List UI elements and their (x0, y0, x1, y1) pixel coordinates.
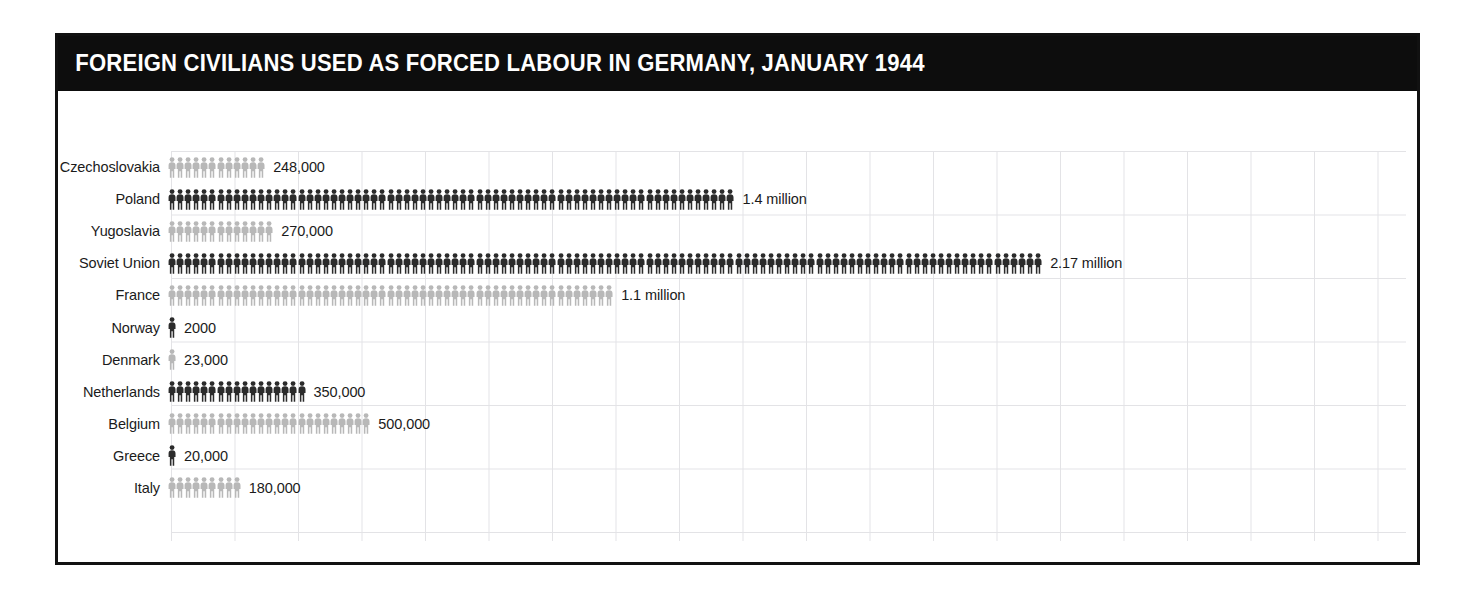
pictogram-bar (168, 381, 306, 402)
person-icon (208, 221, 216, 242)
person-icon (913, 253, 921, 274)
person-icon (306, 413, 314, 434)
person-icon (306, 189, 314, 210)
person-icon (257, 253, 265, 274)
person-icon (184, 477, 192, 498)
person-icon (484, 253, 492, 274)
person-icon (977, 253, 985, 274)
person-icon (411, 189, 419, 210)
row-label-yugoslavia: Yugoslavia (58, 223, 168, 239)
person-icon (961, 253, 969, 274)
person-icon (217, 477, 225, 498)
person-icon (200, 157, 208, 178)
person-icon (646, 189, 654, 210)
person-icon (241, 285, 249, 306)
person-icon (492, 285, 500, 306)
chart-row: Italy180,000 (58, 472, 1417, 504)
person-icon (346, 413, 354, 434)
person-icon (217, 381, 225, 402)
pictogram-bar (168, 285, 613, 306)
person-icon (597, 285, 605, 306)
person-icon (532, 285, 540, 306)
person-icon (581, 253, 589, 274)
person-icon (1002, 253, 1010, 274)
row-label-denmark: Denmark (58, 352, 168, 368)
person-icon (662, 189, 670, 210)
person-icon (225, 253, 233, 274)
person-icon (888, 253, 896, 274)
pictogram-bar (168, 477, 241, 498)
person-icon (670, 253, 678, 274)
row-value-label: 500,000 (370, 416, 430, 432)
person-icon (621, 253, 629, 274)
row-label-czechoslovakia: Czechoslovakia (58, 159, 168, 175)
person-icon (281, 285, 289, 306)
person-icon (314, 189, 322, 210)
person-icon (241, 221, 249, 242)
bar-wrap: 248,000 (168, 157, 1417, 178)
person-icon (233, 157, 241, 178)
person-icon (354, 413, 362, 434)
person-icon (289, 253, 297, 274)
person-icon (168, 381, 176, 402)
person-icon (176, 413, 184, 434)
person-icon (273, 285, 281, 306)
person-icon (573, 285, 581, 306)
plot-area: Czechoslovakia248,000Poland1.4 millionYu… (58, 91, 1417, 562)
person-icon (217, 253, 225, 274)
person-icon (281, 413, 289, 434)
person-icon (192, 221, 200, 242)
person-icon (411, 253, 419, 274)
row-label-greece: Greece (58, 448, 168, 464)
person-icon (629, 189, 637, 210)
person-icon (395, 253, 403, 274)
person-icon (354, 253, 362, 274)
person-icon (208, 157, 216, 178)
person-icon (573, 253, 581, 274)
person-icon (896, 253, 904, 274)
pictogram-bar (168, 221, 273, 242)
person-icon (994, 253, 1002, 274)
pictogram-bar (168, 349, 176, 370)
pictogram-bar (168, 157, 265, 178)
person-icon (225, 157, 233, 178)
person-icon (176, 221, 184, 242)
infographic-root: FOREIGN CIVILIANS USED AS FORCED LABOUR … (0, 0, 1462, 604)
person-icon (880, 253, 888, 274)
person-icon (176, 477, 184, 498)
person-icon (532, 189, 540, 210)
person-icon (726, 189, 734, 210)
person-icon (217, 413, 225, 434)
person-icon (217, 285, 225, 306)
person-icon (929, 253, 937, 274)
person-icon (338, 413, 346, 434)
person-icon (176, 157, 184, 178)
person-icon (816, 253, 824, 274)
person-icon (500, 189, 508, 210)
person-icon (168, 445, 176, 466)
person-icon (646, 253, 654, 274)
person-icon (233, 381, 241, 402)
person-icon (710, 189, 718, 210)
person-icon (298, 413, 306, 434)
person-icon (662, 253, 670, 274)
person-icon (184, 221, 192, 242)
person-icon (192, 477, 200, 498)
person-icon (289, 381, 297, 402)
chart-row: Norway2000 (58, 311, 1417, 343)
person-icon (654, 189, 662, 210)
person-icon (378, 253, 386, 274)
person-icon (346, 285, 354, 306)
page-title: FOREIGN CIVILIANS USED AS FORCED LABOUR … (58, 50, 925, 77)
bar-wrap: 1.4 million (168, 189, 1417, 210)
row-value-label: 20,000 (176, 448, 228, 464)
person-icon (217, 221, 225, 242)
person-icon (540, 189, 548, 210)
person-icon (192, 285, 200, 306)
row-label-poland: Poland (58, 191, 168, 207)
person-icon (484, 189, 492, 210)
person-icon (524, 189, 532, 210)
person-icon (403, 285, 411, 306)
person-icon (241, 189, 249, 210)
person-icon (208, 477, 216, 498)
